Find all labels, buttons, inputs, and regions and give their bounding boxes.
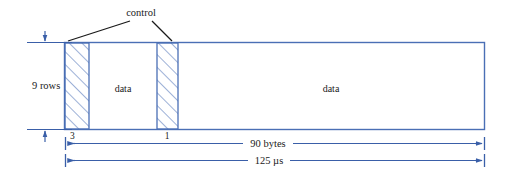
rows-label: 9 rows [32,80,60,91]
control-label: control [126,7,156,18]
control-width-left-label: 3 [70,131,75,141]
bytes-dimension-label: 90 bytes [250,138,285,149]
time-dimension-label: 125 µs [255,155,284,166]
data-label-left: data [115,83,132,94]
control-leader-left [68,21,130,41]
diagram-canvas: control data data 9 rows 3 1 [0,0,510,179]
control-block-left [65,43,89,129]
control-leader-lines [68,21,172,41]
control-leader-right [152,21,172,41]
control-block-left-fill [65,43,89,129]
control-block-right-fill [157,43,178,129]
time-dimension: 125 µs [66,154,485,167]
bytes-dimension: 90 bytes [66,137,485,150]
control-width-right-label: 1 [165,131,170,141]
control-block-right [157,43,178,129]
data-label-right: data [323,83,340,94]
